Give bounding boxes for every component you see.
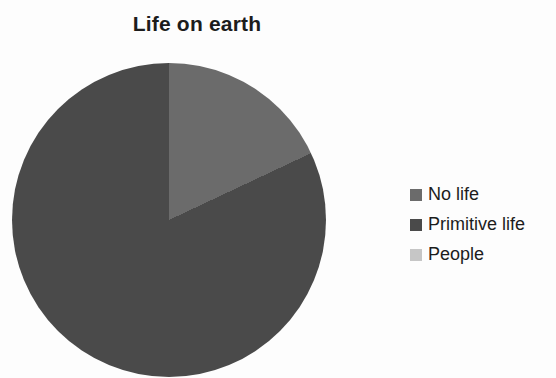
legend-item: Primitive life	[410, 215, 525, 234]
legend-label: Primitive life	[428, 215, 525, 234]
pie-chart	[12, 63, 326, 377]
chart-title: Life on earth	[133, 12, 262, 36]
chart-canvas: Life on earth No lifePrimitive lifePeopl…	[0, 0, 556, 378]
legend-item: People	[410, 245, 525, 264]
legend-swatch-icon	[410, 219, 422, 231]
legend-label: People	[428, 245, 484, 264]
legend-label: No life	[428, 185, 479, 204]
legend-item: No life	[410, 185, 525, 204]
legend-swatch-icon	[410, 249, 422, 261]
legend-swatch-icon	[410, 189, 422, 201]
legend: No lifePrimitive lifePeople	[410, 185, 525, 264]
